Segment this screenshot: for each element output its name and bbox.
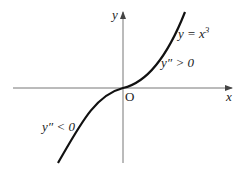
concave-region-label: y″ < 0 [40,119,75,134]
cubic-curve [58,12,185,163]
cubic-function-diagram: O x y y = x3 y″ > 0 y″ < 0 [0,0,245,170]
origin-label: O [125,89,134,104]
convex-region-label: y″ > 0 [159,55,194,70]
y-axis-label: y [110,7,118,22]
curve-equation-label: y = x3 [176,25,210,41]
x-axis-label: x [225,89,232,104]
